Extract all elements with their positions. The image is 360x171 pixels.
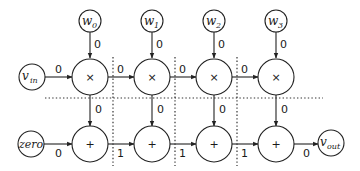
- label-add0-add1: 1: [117, 147, 124, 160]
- multiply-node-0: ×: [72, 59, 108, 95]
- weight-node-w0: w 0: [79, 10, 101, 32]
- weight-nodes: w 0 w 1 w 2 w 3: [79, 10, 287, 32]
- label-mult3-add3: 0: [281, 103, 288, 116]
- label-vin-mult0: 0: [55, 63, 62, 76]
- dataflow-diagram: 0 0 0 0 0 0 0 0 0 0 0 0 0 1 1 1 0 w 0 w …: [0, 0, 360, 171]
- weight-node-w1: w 1: [141, 10, 163, 32]
- svg-text:in: in: [30, 76, 38, 85]
- input-node-vin: v in: [19, 64, 45, 90]
- label-w3-mult3: 0: [280, 38, 287, 51]
- label-add1-add2: 1: [179, 147, 186, 160]
- add-node-3: +: [258, 126, 294, 162]
- weight-node-w3: w 3: [265, 10, 287, 32]
- output-node-vout: v out: [318, 130, 344, 156]
- label-mult0-add0: 0: [95, 103, 102, 116]
- label-w1-mult1: 0: [156, 38, 163, 51]
- input-node-zero: zero: [18, 131, 44, 157]
- svg-text:v: v: [320, 135, 327, 149]
- multiply-node-2: ×: [196, 59, 232, 95]
- label-w2-mult2: 0: [218, 38, 225, 51]
- multiply-icon: ×: [271, 71, 280, 84]
- label-mult2-add2: 0: [219, 103, 226, 116]
- io-nodes: v in zero v out: [18, 64, 344, 157]
- plus-icon: +: [271, 138, 280, 151]
- weight-node-w2: w 2: [203, 10, 225, 32]
- label-mult1-mult2: 0: [179, 63, 186, 76]
- label-mult2-mult3: 0: [241, 63, 248, 76]
- svg-text:v: v: [22, 69, 29, 83]
- svg-text:out: out: [327, 142, 341, 151]
- svg-text:zero: zero: [18, 138, 44, 151]
- multiply-icon: ×: [147, 71, 156, 84]
- label-mult1-add1: 0: [157, 103, 164, 116]
- multiply-icon: ×: [85, 71, 94, 84]
- plus-icon: +: [85, 138, 94, 151]
- svg-text:2: 2: [215, 21, 221, 30]
- svg-text:0: 0: [92, 21, 97, 30]
- plus-icon: +: [147, 138, 156, 151]
- add-node-0: +: [72, 126, 108, 162]
- multiply-node-1: ×: [134, 59, 170, 95]
- plus-icon: +: [209, 138, 218, 151]
- multiply-node-3: ×: [258, 59, 294, 95]
- add-node-1: +: [134, 126, 170, 162]
- multiply-icon: ×: [209, 71, 218, 84]
- label-zero-add0: 0: [55, 147, 62, 160]
- label-add2-add3: 1: [241, 147, 248, 160]
- label-add3-vout: 0: [303, 147, 310, 160]
- svg-text:1: 1: [154, 21, 159, 30]
- svg-text:3: 3: [278, 21, 283, 30]
- add-node-2: +: [196, 126, 232, 162]
- label-w0-mult0: 0: [94, 38, 101, 51]
- label-mult0-mult1: 0: [117, 63, 124, 76]
